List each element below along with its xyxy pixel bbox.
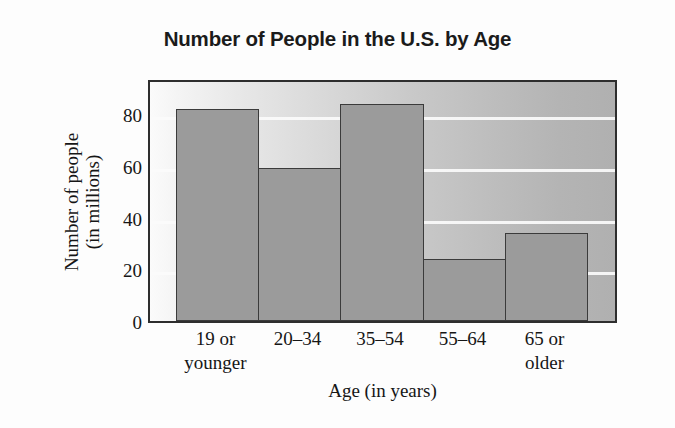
x-tick-line-1: 20–34	[256, 327, 339, 351]
x-tick-label-20-34: 20–34	[256, 327, 339, 351]
bar-19-or-younger	[176, 109, 259, 321]
y-tick-label-20: 20	[106, 260, 142, 282]
x-tick-line-2: older	[503, 351, 586, 375]
y-tick-label-40: 40	[106, 209, 142, 231]
x-tick-label-65-or-older: 65 or older	[503, 327, 586, 376]
y-tick-label-80: 80	[106, 105, 142, 127]
x-tick-label-35-54: 35–54	[338, 327, 422, 351]
x-axis-label: Age (in years)	[148, 380, 617, 402]
chart-title: Number of People in the U.S. by Age	[0, 27, 675, 51]
y-tick-label-60: 60	[106, 157, 142, 179]
y-axis-label-line-2: (in millions)	[82, 132, 103, 270]
bar-65-or-older	[505, 233, 588, 321]
bar-20-34	[258, 168, 341, 321]
x-tick-label-55-64: 55–64	[421, 327, 504, 351]
y-axis-label: Number of people (in millions)	[54, 80, 110, 323]
x-tick-label-19-or-younger: 19 or younger	[174, 327, 257, 376]
y-axis-label-line-1: Number of people	[61, 132, 82, 270]
plot-area	[148, 80, 617, 323]
bar-chart-figure: Number of People in the U.S. by Age Numb…	[0, 0, 675, 428]
y-axis-tick-labels: 80 60 40 20 0	[104, 0, 142, 428]
x-tick-line-1: 65 or	[503, 327, 586, 351]
x-tick-line-1: 35–54	[338, 327, 422, 351]
bar-55-64	[423, 259, 506, 321]
x-tick-line-1: 55–64	[421, 327, 504, 351]
y-tick-label-0: 0	[106, 312, 142, 334]
bar-35-54	[340, 104, 424, 321]
bar-series	[150, 82, 615, 321]
x-tick-line-1: 19 or	[174, 327, 257, 351]
x-tick-line-2: younger	[174, 351, 257, 375]
y-axis-label-text: Number of people (in millions)	[61, 132, 104, 270]
